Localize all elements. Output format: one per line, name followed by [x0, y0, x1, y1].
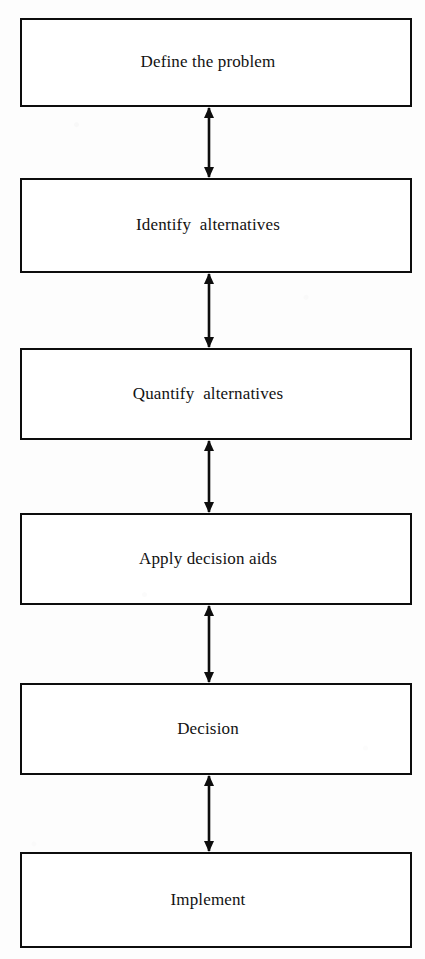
flowchart-canvas: Define the problemIdentify alternativesQ…: [0, 0, 425, 959]
arrowhead-down-icon: [204, 167, 214, 178]
arrowhead-down-icon: [204, 502, 214, 513]
connector-layer: [0, 0, 425, 959]
arrowhead-down-icon: [204, 672, 214, 683]
process-box-label: Apply decision aids: [139, 550, 277, 569]
process-box-quantify-alternatives[interactable]: Quantify alternatives: [20, 348, 412, 440]
arrowhead-up-icon: [204, 605, 214, 616]
process-box-define-the-problem[interactable]: Define the problem: [20, 18, 412, 107]
process-box-implement[interactable]: Implement: [20, 852, 412, 948]
arrowhead-down-icon: [204, 841, 214, 852]
arrowhead-up-icon: [204, 107, 214, 118]
arrowhead-down-icon: [204, 337, 214, 348]
process-box-label: Define the problem: [141, 53, 276, 72]
process-box-label: Decision: [177, 720, 239, 739]
arrowhead-up-icon: [204, 273, 214, 284]
process-box-label: Implement: [171, 891, 246, 910]
process-box-decision[interactable]: Decision: [20, 683, 412, 775]
double-arrow-connector-5: [204, 775, 214, 852]
arrowhead-up-icon: [204, 775, 214, 786]
double-arrow-connector-1: [204, 107, 214, 178]
process-box-label: Quantify alternatives: [133, 385, 284, 404]
process-box-identify-alternatives[interactable]: Identify alternatives: [20, 178, 412, 273]
double-arrow-connector-3: [204, 440, 214, 513]
double-arrow-connector-2: [204, 273, 214, 348]
process-box-label: Identify alternatives: [136, 216, 280, 235]
arrowhead-up-icon: [204, 440, 214, 451]
double-arrow-connector-4: [204, 605, 214, 683]
process-box-apply-decision-aids[interactable]: Apply decision aids: [20, 513, 412, 605]
